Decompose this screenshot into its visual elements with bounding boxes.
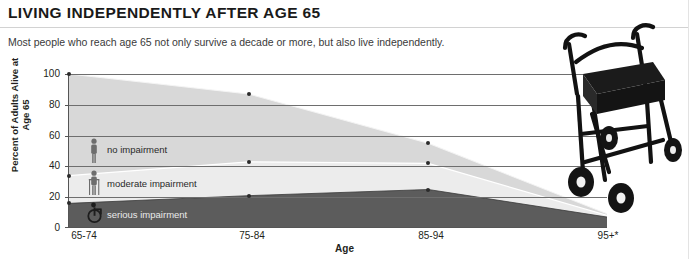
y-tick-mark-80	[65, 105, 69, 106]
gridline-20	[69, 197, 607, 198]
y-tick-mark-60	[65, 136, 69, 137]
walker-wheels	[568, 126, 682, 213]
x-tick-75-84: 75-84	[239, 230, 265, 241]
page-title: LIVING INDEPENDENTLY AFTER AGE 65	[8, 4, 321, 22]
y-tick-mark-20	[65, 197, 69, 198]
x-axis-title: Age	[0, 243, 689, 254]
data-point-moderate-impairment-65-74	[67, 174, 71, 178]
x-tick-85-94: 85-94	[418, 230, 444, 241]
data-point-moderate-impairment-75-84	[247, 160, 251, 164]
gridline-60	[69, 136, 607, 137]
wheelchair-icon	[87, 202, 105, 224]
standing-person-icon	[87, 138, 101, 164]
data-point-no-impairment-85-94	[426, 141, 430, 145]
y-tick-60: 60	[26, 130, 60, 141]
chart-plot-area: no impairment moderate impairment seriou…	[68, 74, 607, 228]
y-tick-100: 100	[26, 68, 60, 79]
person-with-cane-icon	[87, 170, 103, 196]
data-point-serious-impairment-75-84	[247, 194, 251, 198]
data-point-serious-impairment-65-74	[67, 201, 71, 205]
series-label-moderate-impairment: moderate impairment	[107, 178, 197, 189]
walker-seat	[583, 62, 665, 114]
data-point-moderate-impairment-85-94	[426, 161, 430, 165]
data-point-no-impairment-75-84	[247, 92, 251, 96]
gridline-80	[69, 105, 607, 106]
gridline-100	[69, 74, 607, 75]
data-point-no-impairment-65-74	[67, 72, 71, 76]
y-tick-80: 80	[26, 99, 60, 110]
y-tick-mark-40	[65, 166, 69, 167]
y-tick-20: 20	[26, 191, 60, 202]
y-tick-40: 40	[26, 160, 60, 171]
infographic-panel: LIVING INDEPENDENTLY AFTER AGE 65 Most p…	[0, 0, 689, 259]
x-tick-65-74: 65-74	[71, 230, 97, 241]
y-tick-mark-0	[65, 227, 69, 228]
page-subtitle: Most people who reach age 65 not only su…	[8, 36, 444, 48]
series-label-no-impairment: no impairment	[107, 144, 167, 155]
x-axis-tick-labels: 65-74 75-84 85-94 95+*	[0, 230, 689, 244]
x-tick-95-plus: 95+*	[598, 230, 619, 241]
y-axis-tick-labels: 100 80 60 40 20 0	[24, 74, 60, 228]
data-point-serious-impairment-85-94	[426, 188, 430, 192]
gridline-40	[69, 166, 607, 167]
walker-rollator-image	[547, 22, 687, 227]
series-label-serious-impairment: serious impairment	[107, 209, 187, 220]
